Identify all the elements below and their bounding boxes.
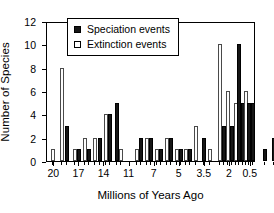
x-tick-label: 11 — [123, 168, 134, 179]
x-tick-label: 14 — [98, 168, 110, 179]
bar — [251, 103, 255, 161]
y-tick — [42, 115, 46, 116]
x-minor-tick — [223, 162, 224, 165]
x-minor-tick — [189, 162, 190, 165]
x-minor-tick — [146, 162, 147, 165]
x-minor-tick — [99, 162, 100, 165]
x-minor-tick — [156, 162, 157, 165]
x-minor-tick — [203, 162, 204, 165]
x-minor-tick — [136, 162, 137, 165]
legend-label-speciation: Speciation events — [87, 24, 170, 35]
x-minor-tick — [227, 162, 228, 165]
y-tick — [42, 22, 46, 23]
chart-legend: Speciation events Extinction events — [67, 18, 179, 56]
x-minor-tick — [231, 162, 232, 165]
x-minor-tick — [116, 162, 117, 165]
bar — [169, 138, 173, 161]
x-tick — [129, 162, 130, 166]
legend-item-speciation: Speciation events — [74, 23, 170, 36]
x-minor-tick — [248, 162, 249, 165]
bar — [119, 149, 123, 161]
chart-figure: Number of Species 024681012 20171411753.… — [0, 0, 274, 213]
x-tick-label: 2 — [226, 168, 232, 179]
open-square-icon — [74, 41, 81, 48]
bar — [98, 138, 102, 161]
x-minor-tick — [235, 162, 236, 165]
x-minor-tick — [140, 162, 141, 165]
x-minor-tick — [109, 162, 110, 165]
x-axis-title: Millions of Years Ago — [46, 189, 255, 201]
x-minor-tick — [61, 162, 62, 165]
x-minor-tick — [264, 162, 265, 165]
legend-item-extinction: Extinction events — [74, 38, 170, 51]
x-minor-tick — [166, 162, 167, 165]
bar — [149, 138, 153, 161]
bar — [108, 114, 112, 161]
x-tick-label: 3.5 — [196, 168, 211, 179]
x-minor-tick — [176, 162, 177, 165]
y-tick — [42, 139, 46, 140]
x-minor-tick — [88, 162, 89, 165]
x-tick — [250, 162, 251, 166]
x-minor-tick — [273, 162, 274, 165]
x-tick-label: 17 — [73, 168, 85, 179]
x-minor-tick — [195, 162, 196, 165]
x-tick — [154, 162, 155, 166]
x-minor-tick — [52, 162, 53, 165]
x-tick-label: 20 — [47, 168, 59, 179]
x-minor-tick — [170, 162, 171, 165]
x-minor-tick — [84, 162, 85, 165]
bar — [139, 138, 143, 161]
x-minor-tick — [94, 162, 95, 165]
bar — [65, 126, 69, 161]
bar — [188, 149, 192, 161]
x-minor-tick — [180, 162, 181, 165]
x-tick — [229, 162, 230, 166]
x-tick — [53, 162, 54, 166]
bar — [194, 126, 198, 161]
x-minor-tick — [209, 162, 210, 165]
x-minor-tick — [78, 162, 79, 165]
bar — [179, 149, 183, 161]
x-minor-tick — [185, 162, 186, 165]
bar — [263, 149, 267, 161]
y-tick-label: 12 — [0, 17, 36, 28]
x-minor-tick — [219, 162, 220, 165]
y-tick — [42, 69, 46, 70]
bar — [87, 149, 91, 161]
y-tick-label: 6 — [0, 87, 36, 98]
bar — [60, 68, 64, 161]
filled-square-icon — [74, 26, 81, 33]
y-tick-label: 0 — [0, 157, 36, 168]
y-tick-label: 4 — [0, 110, 36, 121]
bar — [208, 149, 212, 161]
bar — [51, 149, 55, 161]
x-tick-label: 5 — [176, 168, 182, 179]
x-tick-label: 0.5 — [242, 168, 257, 179]
x-minor-tick — [245, 162, 246, 165]
bar — [159, 149, 163, 161]
x-tick-label: 7 — [151, 168, 157, 179]
y-tick — [42, 92, 46, 93]
x-minor-tick — [252, 162, 253, 165]
bar — [202, 138, 206, 161]
y-tick-label: 8 — [0, 63, 36, 74]
x-minor-tick — [74, 162, 75, 165]
legend-label-extinction: Extinction events — [87, 39, 166, 50]
y-tick-label: 2 — [0, 133, 36, 144]
x-minor-tick — [105, 162, 106, 165]
x-minor-tick — [242, 162, 243, 165]
x-minor-tick — [238, 162, 239, 165]
y-tick-label: 10 — [0, 40, 36, 51]
bar — [77, 149, 81, 161]
x-minor-tick — [120, 162, 121, 165]
bar — [272, 138, 274, 161]
x-minor-tick — [66, 162, 67, 165]
x-minor-tick — [150, 162, 151, 165]
y-tick — [42, 162, 46, 163]
y-tick — [42, 45, 46, 46]
x-minor-tick — [160, 162, 161, 165]
